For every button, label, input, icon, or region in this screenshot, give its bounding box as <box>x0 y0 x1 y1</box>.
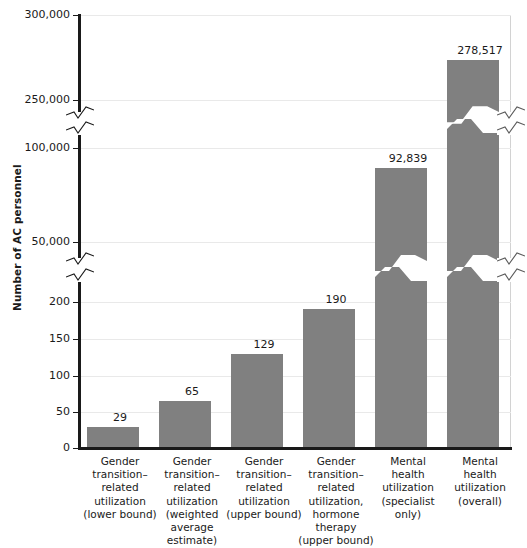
bar-break-mark-lower-specialist <box>371 251 431 281</box>
y-axis-break-mark-upper-a <box>66 104 94 120</box>
cat4-line1: Gender <box>297 455 375 468</box>
cat1-line4: utilization <box>81 495 159 508</box>
plot-area <box>79 15 511 449</box>
cat1-line3: related <box>81 481 159 494</box>
plot-right-border <box>510 15 511 449</box>
cat3-line2: transition– <box>225 468 303 481</box>
category-label-mental-health-specialist-only: Mental health utilization (specialist on… <box>369 455 447 521</box>
bar-value-label-3: 129 <box>221 338 307 351</box>
cat4-line3: related <box>297 481 375 494</box>
bar-value-label-5: 92,839 <box>365 152 451 165</box>
cat4-line5: hormone <box>297 508 375 521</box>
cat1-line2: transition– <box>81 468 159 481</box>
cat4-line7: (upper bound) <box>297 534 375 547</box>
cat6-line2: health <box>441 468 519 481</box>
category-label-gender-transition-upper-bound: Gender transition– related utilization (… <box>225 455 303 521</box>
right-axis-break-mark-upper-b <box>497 119 525 135</box>
y-axis-line <box>78 14 81 450</box>
bar-gender-transition-weighted-average <box>159 401 211 449</box>
cat4-line6: therapy <box>297 521 375 534</box>
cat1-line5: (lower bound) <box>81 508 159 521</box>
cat3-line1: Gender <box>225 455 303 468</box>
bar-break-mark-lower-overall <box>443 251 503 281</box>
ytick-label-100000: 100,000 <box>25 141 71 154</box>
bar-gender-transition-hormone-therapy <box>303 309 355 449</box>
cat2-line6: average <box>153 521 231 534</box>
cat2-line5: (weighted <box>153 508 231 521</box>
bar-gender-transition-lower-bound <box>87 427 139 449</box>
cat2-line1: Gender <box>153 455 231 468</box>
category-label-mental-health-overall: Mental health utilization (overall) <box>441 455 519 508</box>
bar-value-label-2: 65 <box>149 385 235 398</box>
y-axis-break-mark-lower-a <box>66 250 94 266</box>
cat3-line5: (upper bound) <box>225 508 303 521</box>
bar-mental-health-specialist-only <box>375 168 427 449</box>
cat2-line7: estimate) <box>153 534 231 547</box>
bar-value-label-4: 190 <box>293 293 379 306</box>
ytick-mark-50000 <box>73 242 78 243</box>
cat5-line5: only) <box>369 508 447 521</box>
bar-value-label-6: 278,517 <box>437 44 523 57</box>
bar-gender-transition-upper-bound <box>231 354 283 449</box>
cat4-line4: utilization, <box>297 495 375 508</box>
right-axis-break-mark-lower-b <box>497 266 525 282</box>
cat5-line3: utilization <box>369 481 447 494</box>
cat6-line4: (overall) <box>441 495 519 508</box>
cat3-line4: utilization <box>225 495 303 508</box>
ytick-label-250000: 250,000 <box>25 93 71 106</box>
ytick-label-100: 100 <box>49 369 70 382</box>
ytick-label-150: 150 <box>49 332 70 345</box>
y-axis-title: Number of AC personnel <box>11 171 23 311</box>
cat2-line2: transition– <box>153 468 231 481</box>
ytick-mark-0 <box>73 448 78 449</box>
cat3-line3: related <box>225 481 303 494</box>
right-axis-break-mark-lower-a <box>497 250 525 266</box>
cat5-line4: (specialist <box>369 495 447 508</box>
ytick-mark-100000 <box>73 148 78 149</box>
cat6-line1: Mental <box>441 455 519 468</box>
right-axis-break-mark-upper-a <box>497 104 525 120</box>
cat4-line2: transition– <box>297 468 375 481</box>
bar-break-mark-upper-overall <box>443 103 503 133</box>
x-axis-line <box>78 447 512 450</box>
ytick-label-50000: 50,000 <box>32 235 71 248</box>
category-label-gender-transition-weighted-average: Gender transition– related utilization (… <box>153 455 231 547</box>
cat5-line2: health <box>369 468 447 481</box>
cat1-line1: Gender <box>81 455 159 468</box>
ytick-label-200: 200 <box>49 295 70 308</box>
gridline-300000 <box>79 15 511 16</box>
ytick-label-0: 0 <box>63 441 70 454</box>
ytick-mark-250000 <box>73 100 78 101</box>
ytick-mark-100 <box>73 376 78 377</box>
ytick-mark-200 <box>73 302 78 303</box>
bar-value-label-1: 29 <box>77 411 163 424</box>
category-label-gender-transition-lower-bound: Gender transition– related utilization (… <box>81 455 159 521</box>
bar-chart: Number of AC personnel <box>0 0 527 548</box>
cat2-line4: utilization <box>153 495 231 508</box>
category-label-gender-transition-hormone-therapy: Gender transition– related utilization, … <box>297 455 375 547</box>
ytick-label-300000: 300,000 <box>25 8 71 21</box>
y-axis-break-mark-upper-b <box>66 119 94 135</box>
ytick-label-50: 50 <box>56 405 70 418</box>
ytick-mark-150 <box>73 339 78 340</box>
cat2-line3: related <box>153 481 231 494</box>
ytick-mark-300000 <box>73 15 78 16</box>
cat5-line1: Mental <box>369 455 447 468</box>
cat6-line3: utilization <box>441 481 519 494</box>
y-axis-break-mark-lower-b <box>66 266 94 282</box>
